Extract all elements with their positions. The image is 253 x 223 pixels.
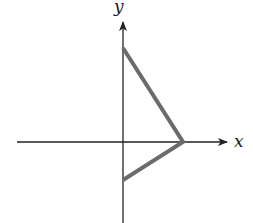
graph-line [123,48,183,180]
y-axis-label: y [113,0,124,16]
x-axis-label: x [234,131,244,151]
coordinate-diagram: y x [0,0,253,223]
